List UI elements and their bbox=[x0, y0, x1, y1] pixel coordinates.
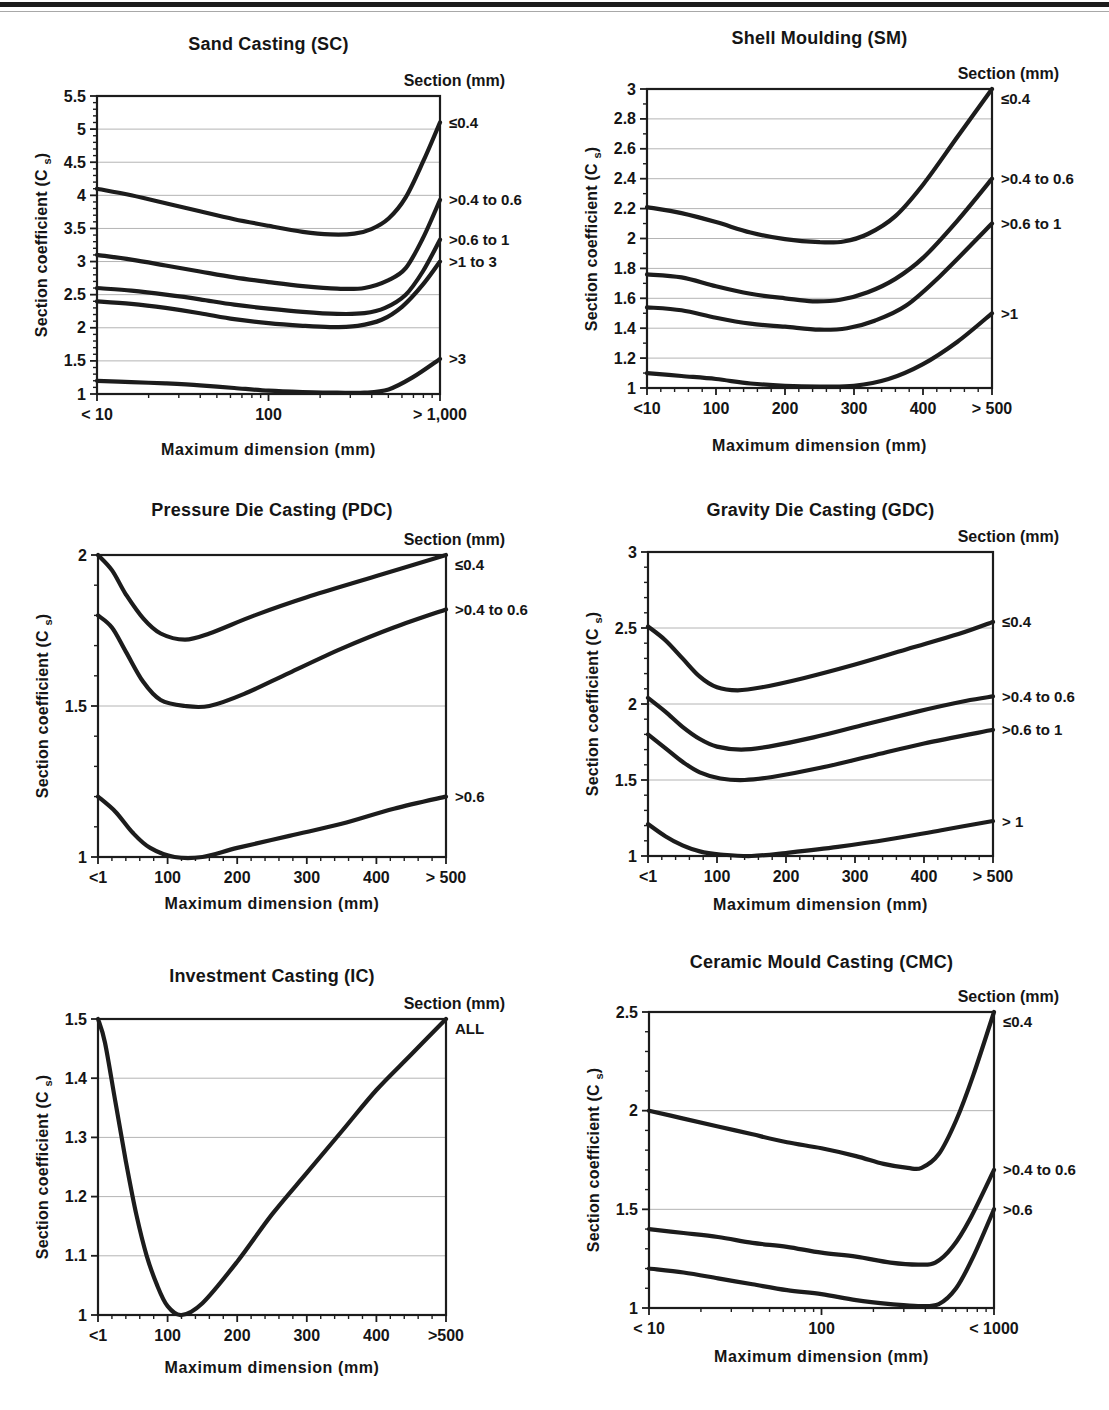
x-tick-label: < 10 bbox=[81, 406, 113, 423]
legend-title: Section (mm) bbox=[809, 528, 1059, 546]
legend-labels: ≤0.4>0.4 to 0.6>0.6 to 1>1 to 3>3 bbox=[449, 114, 522, 367]
y-axis-ticks: 11.522.533.544.555.5 bbox=[64, 88, 97, 403]
x-tick-label: 100 bbox=[154, 869, 181, 886]
y-tick-label: 1.5 bbox=[616, 1201, 638, 1218]
legend-labels: ALL bbox=[455, 1020, 484, 1037]
y-tick-label: 2 bbox=[77, 319, 86, 336]
series-curves bbox=[649, 1012, 994, 1306]
y-tick-label: 1.5 bbox=[64, 352, 86, 369]
x-tick-label: 200 bbox=[224, 869, 251, 886]
x-axis-label: Maximum dimension (mm) bbox=[49, 441, 489, 459]
x-axis-ticks: <10100200300400> 500 bbox=[633, 388, 1012, 417]
y-tick-label: 2.5 bbox=[615, 620, 637, 637]
gridlines bbox=[97, 129, 440, 361]
y-tick-label: 1.3 bbox=[65, 1129, 87, 1146]
legend-title: Section (mm) bbox=[255, 72, 505, 90]
y-tick-label: 1.1 bbox=[65, 1247, 87, 1264]
y-tick-label: 2.4 bbox=[614, 170, 636, 187]
x-tick-label: < 1000 bbox=[969, 1320, 1018, 1337]
x-axis-ticks: < 10100< 1000 bbox=[633, 1308, 1019, 1337]
x-tick-label: 300 bbox=[841, 400, 868, 417]
legend-label: ≤0.4 bbox=[1002, 613, 1032, 630]
gridlines bbox=[98, 1078, 446, 1256]
x-tick-label: 100 bbox=[704, 868, 731, 885]
series-curve bbox=[649, 1012, 994, 1169]
y-tick-label: 1.4 bbox=[65, 1070, 87, 1087]
y-axis-label: Section coefficient (C s) bbox=[585, 1068, 605, 1252]
ceramic-mould-casting-plot: 11.522.5< 10100< 1000≤0.4>0.4 to 0.6>0.6 bbox=[554, 940, 1109, 1410]
y-tick-label: 2.6 bbox=[614, 140, 636, 157]
x-tick-label: 300 bbox=[842, 868, 869, 885]
chart-gravity-die-casting: 11.522.53<1100200300400> 500≤0.4>0.4 to … bbox=[554, 470, 1109, 940]
legend-title: Section (mm) bbox=[809, 65, 1059, 83]
series-curves bbox=[97, 123, 440, 393]
x-axis-ticks: <1100200300400>500 bbox=[89, 1315, 464, 1344]
chart-title: Investment Casting (IC) bbox=[52, 966, 492, 987]
x-axis-ticks: < 10100> 1,000 bbox=[81, 394, 467, 423]
x-tick-label: > 1,000 bbox=[413, 406, 467, 423]
x-tick-label: 400 bbox=[363, 1327, 390, 1344]
y-tick-label: 1 bbox=[78, 1307, 87, 1324]
y-axis-ticks: 11.11.21.31.41.5 bbox=[65, 1011, 98, 1324]
y-tick-label: 1.4 bbox=[614, 320, 636, 337]
x-tick-label: > 500 bbox=[426, 869, 467, 886]
legend-label: >0.6 bbox=[455, 788, 485, 805]
y-axis-label: Section coefficient (C s) bbox=[583, 146, 603, 330]
y-tick-label: 5.5 bbox=[64, 88, 86, 105]
chart-sand-casting: 11.522.533.544.555.5< 10100> 1,000≤0.4>0… bbox=[0, 0, 555, 470]
x-tick-label: <1 bbox=[89, 869, 107, 886]
legend-label: >0.4 to 0.6 bbox=[1002, 688, 1075, 705]
x-tick-label: >500 bbox=[428, 1327, 464, 1344]
legend-label: >0.4 to 0.6 bbox=[1003, 1161, 1076, 1178]
legend-label: >0.6 to 1 bbox=[1001, 215, 1061, 232]
x-tick-label: 400 bbox=[911, 868, 938, 885]
y-axis-label: Section coefficient (C s) bbox=[34, 1075, 54, 1259]
chart-title: Gravity Die Casting (GDC) bbox=[601, 500, 1041, 521]
chart-shell-moulding: 11.21.41.61.822.22.42.62.83<101002003004… bbox=[554, 0, 1109, 470]
x-tick-label: 300 bbox=[293, 869, 320, 886]
y-tick-label: 1 bbox=[629, 1300, 638, 1317]
y-axis-ticks: 11.522.5 bbox=[616, 1004, 649, 1317]
legend-label: >0.4 to 0.6 bbox=[449, 191, 522, 208]
y-tick-label: 3 bbox=[628, 544, 637, 561]
legend-label: >3 bbox=[449, 350, 466, 367]
chart-pressure-die-casting: 11.52<1100200300400> 500≤0.4>0.4 to 0.6>… bbox=[0, 470, 555, 940]
legend-label: >0.6 bbox=[1003, 1201, 1033, 1218]
x-axis-ticks: <1100200300400> 500 bbox=[639, 856, 1013, 885]
y-tick-label: 1 bbox=[77, 386, 86, 403]
x-axis-label: Maximum dimension (mm) bbox=[52, 895, 492, 913]
legend-label: > 1 bbox=[1002, 813, 1023, 830]
y-tick-label: 1 bbox=[628, 848, 637, 865]
legend-label: >1 to 3 bbox=[449, 253, 497, 270]
legend-label: >0.4 to 0.6 bbox=[1001, 170, 1074, 187]
y-tick-label: 2 bbox=[627, 230, 636, 247]
y-tick-label: 3.5 bbox=[64, 220, 86, 237]
y-axis-ticks: 11.21.41.61.822.22.42.62.83 bbox=[614, 81, 647, 397]
legend-label: >0.6 to 1 bbox=[1002, 721, 1062, 738]
series-curves bbox=[98, 1019, 446, 1315]
legend-label: ≤0.4 bbox=[1001, 90, 1031, 107]
series-curve bbox=[97, 240, 440, 314]
legend-labels: ≤0.4>0.4 to 0.6>0.6 bbox=[455, 556, 528, 806]
x-tick-label: > 500 bbox=[973, 868, 1014, 885]
series-curve bbox=[649, 1170, 994, 1265]
y-tick-label: 5 bbox=[77, 121, 86, 138]
chart-investment-casting: 11.11.21.31.41.5<1100200300400>500ALL In… bbox=[0, 940, 555, 1410]
y-tick-label: 1.2 bbox=[614, 350, 636, 367]
y-tick-label: 2.5 bbox=[616, 1004, 638, 1021]
chart-title: Ceramic Mould Casting (CMC) bbox=[602, 952, 1042, 973]
chart-title: Pressure Die Casting (PDC) bbox=[52, 500, 492, 521]
x-axis-label: Maximum dimension (mm) bbox=[601, 896, 1041, 914]
y-tick-label: 2.8 bbox=[614, 110, 636, 127]
x-tick-label: <1 bbox=[89, 1327, 107, 1344]
y-tick-label: 1.8 bbox=[614, 260, 636, 277]
series-curve bbox=[98, 1019, 446, 1315]
y-axis-label: Section coefficient (C s) bbox=[34, 614, 54, 798]
y-axis-label: Section coefficient (C s) bbox=[33, 153, 53, 337]
legend-title: Section (mm) bbox=[255, 995, 505, 1013]
y-tick-label: 3 bbox=[627, 81, 636, 98]
y-tick-label: 1.5 bbox=[65, 1011, 87, 1028]
y-axis-ticks: 11.52 bbox=[65, 547, 98, 866]
legend-label: ≤0.4 bbox=[449, 114, 479, 131]
series-curves bbox=[98, 555, 446, 858]
